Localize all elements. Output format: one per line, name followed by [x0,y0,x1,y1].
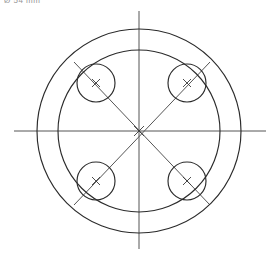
flange-drawing-svg [0,0,280,255]
bolt-holes-group [77,64,206,200]
technical-drawing-canvas: Ø 54 mm [0,0,280,255]
center-mark-bottom-left [92,177,100,185]
dimension-label: Ø 54 mm [4,0,40,5]
center-mark-bottom-right [183,177,191,185]
